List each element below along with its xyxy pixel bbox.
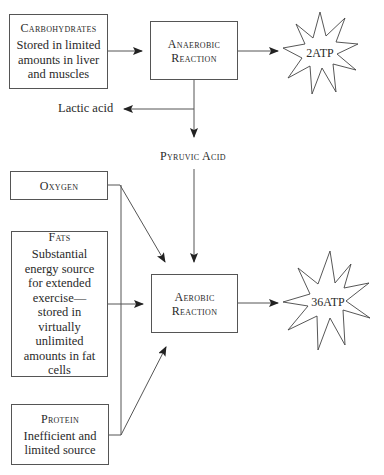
protein-box: Protein Inefficient and limited source [11, 404, 109, 465]
carbohydrates-box: Carbohydrates Stored in limited amounts … [9, 14, 108, 89]
oxygen-box: Oxygen [10, 171, 108, 200]
anaerobic-line1: Anaerobic [168, 37, 220, 51]
fats-title: Fats [48, 230, 70, 244]
carbohydrates-title: Carbohydrates [21, 21, 97, 35]
aerobic-line1: Aerobic [174, 290, 214, 304]
protein-title: Protein [41, 412, 79, 426]
fats-box: Fats Substantial energy source for exten… [11, 231, 108, 377]
protein-description: Inefficient and limited source [15, 429, 105, 458]
aerobic-reaction-box: Aerobic Reaction [151, 274, 238, 333]
aerobic-atp-label: 36ATP [311, 295, 344, 310]
aerobic-line2: Reaction [172, 304, 218, 318]
lactic-acid-label: Lactic acid [58, 101, 113, 116]
oxygen-title: Oxygen [40, 179, 78, 193]
carbohydrates-description: Stored in limited amounts in liver and m… [16, 38, 102, 82]
fats-description: Substantial energy source for extended e… [19, 247, 101, 378]
anaerobic-atp-label: 2ATP [306, 46, 333, 61]
anaerobic-line2: Reaction [171, 51, 217, 65]
anaerobic-reaction-box: Anaerobic Reaction [150, 21, 238, 80]
pyruvic-acid-label: Pyruvic Acid [160, 149, 226, 164]
